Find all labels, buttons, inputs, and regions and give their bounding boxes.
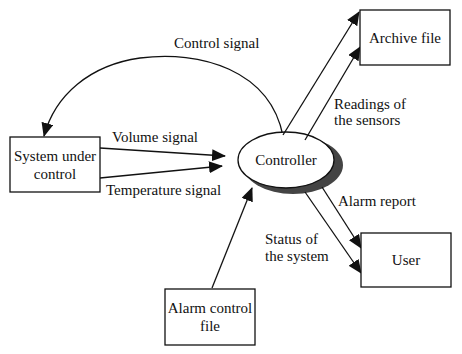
status-label-line2: the system: [265, 248, 329, 264]
alarm-file-label-line2: file: [200, 318, 220, 334]
context-diagram: Control signal System under control Volu…: [0, 0, 462, 354]
control-signal-label: Control signal: [174, 35, 259, 51]
volume-signal-flow: [100, 148, 225, 156]
controller-label: Controller: [255, 152, 317, 168]
alarm-file-label-line1: Alarm control: [168, 300, 253, 316]
system-label-line1: System under: [14, 148, 96, 164]
control-signal-flow: [44, 56, 283, 136]
volume-signal-label: Volume signal: [112, 129, 198, 145]
system-under-control-node: System under control: [10, 137, 100, 192]
temperature-signal-flow: [100, 166, 222, 178]
alarm-report-label: Alarm report: [338, 193, 417, 209]
readings-label-line1: Readings of: [334, 96, 406, 112]
system-label-line2: control: [34, 166, 77, 182]
archive-file-node: Archive file: [360, 10, 450, 65]
temperature-signal-label: Temperature signal: [106, 182, 221, 198]
user-label: User: [392, 252, 420, 268]
readings-label-line2: the sensors: [334, 112, 400, 128]
alarm-control-flow: [212, 188, 252, 288]
status-label-line1: Status of: [265, 231, 318, 247]
controller-node: Controller: [238, 132, 343, 194]
alarm-control-file-node: Alarm control file: [165, 289, 255, 345]
user-node: User: [361, 233, 451, 287]
archive-label: Archive file: [369, 30, 441, 46]
